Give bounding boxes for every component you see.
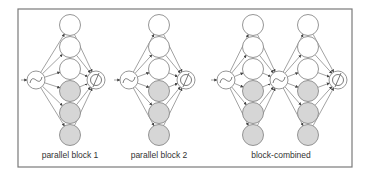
- edge-out: [80, 73, 88, 76]
- hidden-node-gray: [243, 103, 264, 124]
- edge-out: [263, 73, 271, 76]
- label-parallel-block-2: parallel block 2: [131, 150, 188, 160]
- hidden-node-white: [60, 59, 81, 80]
- hidden-node-white: [298, 37, 319, 58]
- output-node: [329, 71, 347, 89]
- combined-middle-node: [270, 71, 288, 89]
- hidden-node-gray: [60, 103, 81, 124]
- edge-out: [318, 83, 330, 87]
- edge-in: [45, 83, 60, 88]
- edge-in: [287, 83, 298, 87]
- hidden-node-white: [243, 59, 264, 80]
- hidden-node-gray: [60, 125, 81, 146]
- hidden-node-gray: [149, 103, 170, 124]
- hidden-node-gray: [298, 103, 319, 124]
- label-block-combined: block-combined: [251, 150, 311, 160]
- hidden-node-white: [298, 59, 319, 80]
- nodes: [27, 15, 347, 146]
- hidden-node-white: [243, 37, 264, 58]
- edge-in: [234, 83, 243, 87]
- hidden-node-gray: [60, 81, 81, 102]
- edge-out: [80, 84, 88, 87]
- edge-in: [45, 72, 60, 77]
- edge-in: [287, 73, 298, 77]
- input-node: [120, 71, 138, 89]
- hidden-node-gray: [149, 125, 170, 146]
- hidden-node-white: [60, 37, 81, 58]
- hidden-node-white: [149, 37, 170, 58]
- edge-in: [137, 83, 149, 87]
- hidden-node-gray: [243, 125, 264, 146]
- label-parallel-block-1: parallel block 1: [42, 150, 99, 160]
- hidden-node-white: [149, 15, 170, 36]
- edge-out: [169, 83, 178, 87]
- input-node: [27, 71, 45, 89]
- hidden-node-white: [60, 15, 81, 36]
- hidden-node-white: [298, 15, 319, 36]
- output-node: [87, 71, 105, 89]
- edge-out: [318, 73, 330, 77]
- hidden-node-gray: [298, 125, 319, 146]
- hidden-node-gray: [298, 81, 319, 102]
- hidden-node-white: [149, 59, 170, 80]
- hidden-node-gray: [149, 81, 170, 102]
- hidden-node-gray: [243, 81, 264, 102]
- output-node: [177, 71, 195, 89]
- edge-in: [234, 73, 243, 77]
- edge-out: [263, 84, 271, 87]
- edge-out: [169, 73, 178, 77]
- input-node: [217, 71, 235, 89]
- hidden-node-white: [243, 15, 264, 36]
- edge-in: [137, 73, 149, 77]
